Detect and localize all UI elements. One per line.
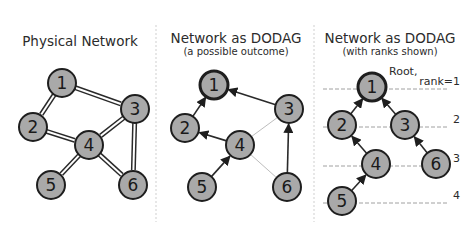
panel-subtitle: (with ranks shown) [342,46,437,57]
node-4: 4 [226,131,254,159]
node-label: 3 [400,115,411,135]
node-label: 6 [128,175,139,195]
panel-dodag-ranks: Network as DODAG (with ranks shown) Root… [323,30,460,215]
panel-physical-network: Physical Network 123456 [19,33,149,199]
panel-title: Network as DODAG [325,30,456,46]
node-label: 3 [284,99,295,119]
link-edge-inner [133,123,134,170]
nodes: 123456 [328,73,450,215]
rank-label: 2 [453,113,460,126]
node-label: 1 [367,77,378,97]
edges [351,98,428,190]
node-3: 3 [275,95,303,123]
node-6: 6 [273,173,301,201]
panel-title: Physical Network [22,33,138,49]
node-3: 3 [391,111,419,139]
parent-arrow [228,90,275,105]
link-edge-inner [41,95,54,115]
node-label: 4 [235,135,246,155]
parent-arrow [193,97,206,116]
node-5: 5 [188,173,216,201]
node-label: 6 [431,154,442,174]
node-label: 1 [57,73,68,93]
node-3: 3 [121,95,149,123]
node-label: 1 [209,75,220,95]
panel-title: Network as DODAG [171,30,302,46]
root-label: Root, [389,65,417,78]
nodes: 123456 [171,71,303,201]
node-5: 5 [37,171,65,199]
node-4: 4 [75,131,103,159]
link-edge-inner [101,118,124,136]
rank-label: 4 [453,189,460,202]
panel-dodag-outcome: Network as DODAG (a possible outcome) 12… [171,30,303,201]
link-edge-inner [99,154,122,174]
parent-arrow [199,132,226,140]
unused-link [251,118,277,137]
node-1: 1 [200,71,228,99]
node-6: 6 [422,150,450,178]
link-edge-inner [61,155,79,174]
node-label: 2 [28,117,39,137]
node-2: 2 [328,111,356,139]
node-label: 5 [337,191,348,211]
parent-arrow [287,124,288,173]
node-label: 6 [282,177,293,197]
node-label: 2 [337,115,348,135]
parent-arrow [414,137,427,153]
node-1: 1 [358,73,386,101]
node-6: 6 [119,171,147,199]
node-label: 5 [197,177,208,197]
node-label: 4 [371,154,382,174]
parent-arrow [211,156,230,176]
parent-arrow [351,175,365,191]
parent-arrow [382,98,396,114]
node-label: 2 [180,118,191,138]
node-label: 3 [130,99,141,119]
node-2: 2 [171,114,199,142]
node-4: 4 [362,150,390,178]
node-5: 5 [328,187,356,215]
rank-label: 3 [453,152,460,165]
node-label: 5 [46,175,57,195]
unused-link [250,154,275,177]
panel-subtitle: (a possible outcome) [183,46,288,57]
parent-arrow [352,136,367,153]
link-edge-inner [46,131,74,140]
node-2: 2 [19,113,47,141]
rank-label: rank=1 [419,75,460,88]
node-1: 1 [48,69,76,97]
link-edge-inner [75,88,121,104]
parent-arrow [351,99,363,114]
dodag-diagram: Physical Network 123456 Network as DODAG… [0,0,473,234]
node-label: 4 [84,135,95,155]
